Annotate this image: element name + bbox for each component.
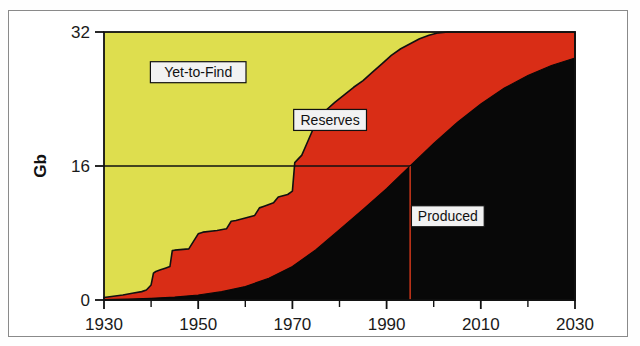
- xtick-label-1950: 1950: [179, 315, 217, 334]
- xtick-label-1990: 1990: [368, 315, 406, 334]
- ytick-label-16: 16: [71, 157, 90, 176]
- yet-to-find-label: Yet-to-Find: [164, 64, 232, 80]
- xtick-label-2030: 2030: [556, 315, 594, 334]
- ytick-label-32: 32: [71, 23, 90, 42]
- y-axis-title: Gb: [31, 154, 50, 178]
- figure-container: 01632Gb193019501970199020102030Yet-to-Fi…: [0, 0, 640, 346]
- oil-depletion-area-chart: 01632Gb193019501970199020102030Yet-to-Fi…: [0, 0, 640, 346]
- xtick-label-2010: 2010: [462, 315, 500, 334]
- xtick-label-1930: 1930: [85, 315, 123, 334]
- ytick-label-0: 0: [81, 291, 90, 310]
- produced-label: Produced: [418, 208, 478, 224]
- reserves-label: Reserves: [301, 112, 360, 128]
- xtick-label-1970: 1970: [273, 315, 311, 334]
